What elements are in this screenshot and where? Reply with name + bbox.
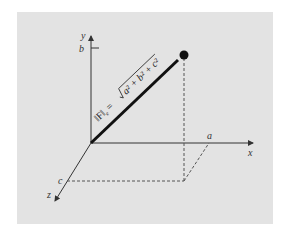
formula-rhs: a² + b² + c² xyxy=(120,56,162,97)
vector-endpoint xyxy=(180,51,189,60)
dashed-a-line xyxy=(184,143,209,181)
b-label: b xyxy=(79,43,84,54)
a-label: a xyxy=(207,130,212,141)
z-axis xyxy=(55,143,91,201)
z-axis-label: z xyxy=(46,189,51,200)
x-axis-label: x xyxy=(247,147,253,158)
vector-arrow xyxy=(91,60,178,143)
vector-diagram: y b x a c z ‖F‖e = a² + b² + c² xyxy=(0,0,283,237)
y-axis-label: y xyxy=(80,30,86,41)
c-label: c xyxy=(58,175,63,186)
norm-formula: ‖F‖e = a² + b² + c² xyxy=(91,54,164,124)
